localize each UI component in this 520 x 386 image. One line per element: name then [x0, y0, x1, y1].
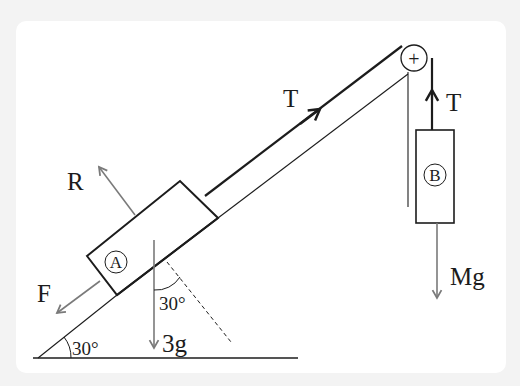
normal-reaction-label: R — [67, 168, 84, 195]
incline-angle-arc — [64, 337, 71, 358]
weight-angle-arc — [154, 277, 180, 290]
tension-arrow-incline — [300, 109, 320, 124]
block-a — [87, 181, 218, 295]
normal-reaction-arrow — [99, 167, 135, 215]
weight-angle-label: 30° — [159, 293, 186, 314]
tension-label-hanging: T — [446, 89, 461, 116]
friction-label: F — [37, 280, 51, 307]
diagram-frame: 30° A T + T B Mg R F 3g — [0, 0, 520, 386]
pulley-incline-diagram: 30° A T + T B Mg R F 3g — [0, 0, 520, 386]
block-b-label: B — [429, 166, 440, 185]
incline-angle-label: 30° — [72, 338, 99, 359]
friction-arrow — [57, 281, 100, 313]
weight-label-b: Mg — [450, 263, 485, 290]
pulley-axle-icon: + — [408, 48, 419, 70]
incline-surface-upper — [218, 74, 408, 218]
tension-label-incline: T — [283, 85, 298, 112]
block-a-label: A — [110, 253, 123, 272]
weight-label-a: 3g — [162, 330, 188, 357]
